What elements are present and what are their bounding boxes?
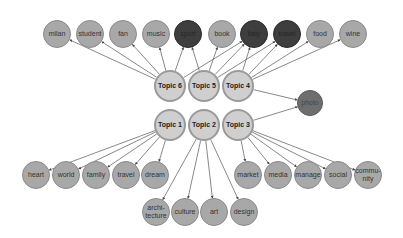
topic-label: Topic 4 [226, 82, 250, 90]
edge-t3-photo [253, 107, 297, 121]
edge-t1-dream [159, 140, 165, 161]
topic-node-t6[interactable]: Topic 6 [154, 70, 186, 102]
word-label: culture [174, 208, 195, 216]
word-label: milan [49, 30, 66, 38]
word-node-dream[interactable]: dream [141, 161, 169, 189]
word-node-design[interactable]: design [230, 198, 258, 226]
topic-label: Topic 3 [226, 121, 250, 129]
edge-t6-sport [175, 47, 183, 71]
word-label: commu- nity [355, 167, 380, 183]
word-label: photo [301, 99, 319, 107]
word-node-heart[interactable]: heart [22, 161, 50, 189]
word-node-market[interactable]: market [234, 161, 262, 189]
edge-t6-fan [132, 44, 159, 74]
word-node-travel[interactable]: travel [112, 161, 140, 189]
word-node-culture[interactable]: culture [171, 198, 199, 226]
word-label: sport [180, 30, 196, 38]
word-label: art [210, 208, 218, 216]
edge-t6-music [160, 48, 166, 71]
word-node-media[interactable]: media [264, 161, 292, 189]
word-node-social[interactable]: social [324, 161, 352, 189]
topic-label: Topic 1 [158, 121, 182, 129]
edge-t4-photo [254, 90, 298, 100]
edge-t2-culture [188, 141, 201, 199]
word-label: world [58, 171, 75, 179]
word-node-family[interactable]: family [82, 161, 110, 189]
word-node-travel_top[interactable]: travel [273, 20, 301, 48]
word-label: dream [145, 171, 165, 179]
word-node-student[interactable]: student [76, 20, 104, 48]
word-node-milan[interactable]: milan [43, 20, 71, 48]
word-node-sport[interactable]: sport [174, 20, 202, 48]
topic-label: Topic 2 [192, 121, 216, 129]
word-label: heart [28, 171, 44, 179]
word-label: design [234, 208, 255, 216]
word-label: archi- tecture [145, 204, 166, 220]
edge-t3-market [241, 141, 245, 162]
word-label: market [237, 171, 258, 179]
word-label: fan [118, 30, 128, 38]
topic-node-t5[interactable]: Topic 5 [188, 70, 220, 102]
edge-t5-book [209, 47, 217, 71]
edge-t4-food [252, 41, 309, 77]
topic-node-t3[interactable]: Topic 3 [222, 109, 254, 141]
word-label: food [313, 30, 327, 38]
word-label: social [329, 171, 347, 179]
edge-t6-student [102, 42, 157, 78]
word-label: wine [346, 30, 360, 38]
word-label: travel [117, 171, 134, 179]
word-node-manage[interactable]: manage [294, 161, 322, 189]
word-node-italy[interactable]: italy [240, 20, 268, 48]
word-node-fan[interactable]: fan [109, 20, 137, 48]
edge-t2-art [206, 141, 213, 198]
word-label: book [214, 30, 229, 38]
word-node-art[interactable]: art [200, 198, 228, 226]
edge-t4-italy [243, 47, 250, 70]
word-node-food[interactable]: food [306, 20, 334, 48]
word-node-music[interactable]: music [142, 20, 170, 48]
word-label: family [87, 171, 105, 179]
edge-t3-media [248, 137, 269, 164]
word-node-book[interactable]: book [208, 20, 236, 48]
word-label: music [147, 30, 165, 38]
word-node-community[interactable]: commu- nity [354, 161, 382, 189]
edge-t5-sport [192, 47, 199, 70]
word-label: media [268, 171, 287, 179]
word-label: manage [295, 171, 320, 179]
topic-node-t1[interactable]: Topic 1 [154, 109, 186, 141]
topic-node-t4[interactable]: Topic 4 [222, 70, 254, 102]
word-node-wine[interactable]: wine [339, 20, 367, 48]
word-node-architecture[interactable]: archi- tecture [142, 198, 170, 226]
topic-label: Topic 5 [192, 82, 216, 90]
word-label: student [79, 30, 102, 38]
topic-node-t2[interactable]: Topic 2 [188, 109, 220, 141]
word-node-photo[interactable]: photo [297, 90, 323, 116]
topic-label: Topic 6 [158, 82, 182, 90]
word-node-world[interactable]: world [52, 161, 80, 189]
word-label: travel [278, 30, 295, 38]
word-label: italy [248, 30, 260, 38]
